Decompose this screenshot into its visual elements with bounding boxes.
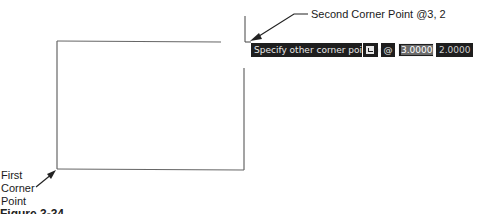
options-down-arrow-icon[interactable]	[363, 43, 378, 57]
second-corner-arrowhead	[250, 33, 262, 41]
drawing-canvas[interactable]	[0, 0, 477, 214]
first-corner-label-line1: First	[1, 169, 22, 181]
x-coordinate-value: 3.0000	[401, 45, 433, 55]
first-corner-label-line2: Corner	[1, 182, 35, 194]
figure-caption: Figure 3-34	[0, 207, 64, 214]
first-corner-label-line3: Point	[1, 195, 26, 207]
relative-coordinate-symbol: @	[381, 43, 395, 57]
rectangle	[57, 41, 244, 170]
y-coordinate-input[interactable]: 2.0000	[436, 43, 473, 57]
crosshair-cursor	[245, 16, 251, 42]
dynamic-input-prompt: Specify other corner point or	[251, 43, 362, 57]
second-corner-leader	[256, 14, 308, 38]
second-corner-label: Second Corner Point @3, 2	[311, 8, 446, 20]
x-coordinate-input[interactable]: 3.0000	[398, 43, 434, 57]
